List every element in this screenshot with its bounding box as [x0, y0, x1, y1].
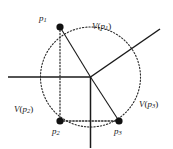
site-label-p3: p3	[114, 127, 122, 137]
region-label-v-p1-close: )	[108, 21, 111, 31]
region-label-v-p2-close: )	[30, 104, 33, 114]
site-point-p2	[56, 117, 63, 124]
site-point-p1	[56, 23, 63, 30]
site-label-p3-sub: 3	[119, 129, 122, 136]
site-label-p2-sub: 2	[57, 129, 60, 136]
voronoi-figure: p1 p2 p3 V(p1) V(p2) V(p3)	[0, 0, 173, 149]
site-point-p3	[115, 117, 122, 124]
segment-p3-to-vertex	[91, 77, 120, 121]
voronoi-diagram-canvas	[0, 0, 173, 149]
segment-p1-to-vertex	[60, 27, 91, 77]
region-label-v-p2: V(p2)	[14, 105, 33, 115]
site-label-p1-sub: 1	[44, 16, 47, 23]
site-label-p2: p2	[52, 127, 60, 137]
region-label-v-p1: V(p1)	[92, 22, 111, 32]
voronoi-ray-upper-right	[91, 29, 161, 77]
region-label-v-p3: V(p3)	[139, 100, 158, 110]
site-label-p1: p1	[39, 14, 47, 24]
region-label-v-p3-close: )	[155, 99, 158, 109]
